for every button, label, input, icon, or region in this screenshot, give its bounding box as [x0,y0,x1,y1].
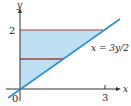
y-tick-label: 2 [9,25,15,36]
origin-label: 0 [12,93,18,104]
x-axis-arrow-icon [116,87,121,91]
diagram-canvas: y x 2 3 0 x = 3y/2 [0,0,131,106]
curve-label: x = 3y/2 [91,43,129,53]
x-tick-label: 3 [102,92,108,103]
y-axis-label: y [16,0,23,10]
x-axis-label: x [123,84,128,94]
